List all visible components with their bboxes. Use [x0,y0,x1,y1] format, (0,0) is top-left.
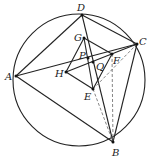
point-g [83,37,86,40]
dashed-segment-fb [112,54,113,142]
label-a: A [4,71,12,82]
label-p: P [78,50,86,61]
label-g: G [74,32,82,43]
geometry-diagram: ABCDEFGHPQ [0,0,151,165]
segment-dc [82,15,137,44]
segment-gf [84,38,112,54]
label-h: H [54,68,64,79]
point-b [112,141,115,144]
label-d: D [76,2,85,13]
point-a [15,75,18,78]
segment-he [66,72,93,89]
point-e [92,88,95,91]
point-h [65,71,68,74]
segment-ab [16,76,113,142]
segment-db [82,15,113,142]
point-d [81,14,84,17]
label-c: C [139,36,147,47]
label-e: E [83,91,92,102]
point-q [92,61,95,64]
point-p [87,57,90,60]
dashed-segment-eb [93,89,113,142]
label-q: Q [96,61,104,72]
figure-canvas: ABCDEFGHPQ [0,0,151,165]
label-b: B [111,147,119,158]
label-f: F [112,55,121,66]
